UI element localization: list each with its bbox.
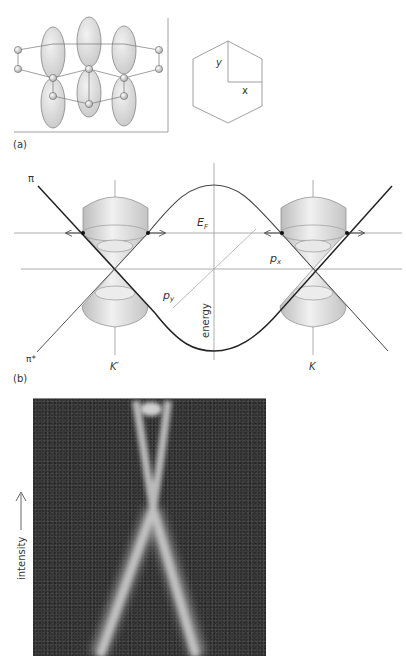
intensity-axis: intensity bbox=[8, 480, 38, 660]
cone-k bbox=[280, 197, 346, 327]
intensity-label: intensity bbox=[16, 537, 27, 580]
k-label: K bbox=[309, 361, 317, 372]
py-axis bbox=[173, 229, 256, 308]
k-prime-label: K′ bbox=[110, 361, 120, 372]
fermi-energy-label: EF bbox=[197, 216, 209, 231]
dirac-cone-bands bbox=[33, 399, 266, 656]
panel-b-figure: π π* EF px py energy K′ K (b) bbox=[0, 0, 406, 400]
panel-b-label: (b) bbox=[13, 373, 27, 384]
arpes-intensity-image bbox=[33, 398, 266, 656]
py-label: py bbox=[162, 289, 175, 303]
energy-axis-label: energy bbox=[200, 303, 211, 338]
px-label: px bbox=[269, 252, 282, 266]
pi-star-band-label: π* bbox=[26, 354, 36, 364]
pi-band-label: π bbox=[28, 173, 34, 184]
cone-k-prime bbox=[82, 197, 148, 327]
